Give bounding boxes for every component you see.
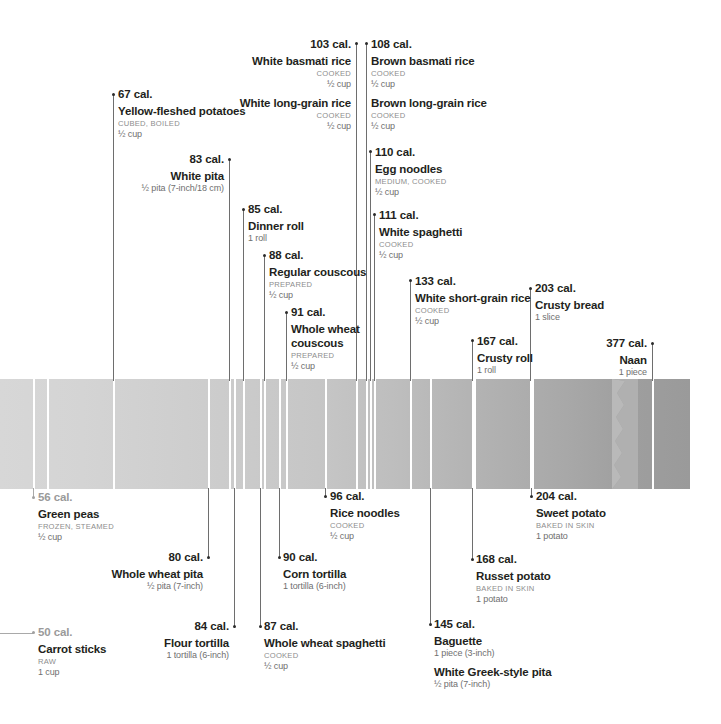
serving-size-secondary: ½ pita (7-inch) bbox=[434, 679, 551, 690]
serving-size: 1 tortilla (6-inch) bbox=[283, 581, 346, 592]
prep-note: COOKED bbox=[371, 69, 487, 79]
food-name: Dinner roll bbox=[248, 219, 304, 233]
label-green-peas[interactable]: 56 cal. Green peas FROZEN, STEAMED ½ cup bbox=[38, 491, 114, 543]
leader-87 bbox=[260, 488, 261, 628]
band-divider-111 bbox=[374, 379, 376, 489]
label-naan[interactable]: 377 cal. Naan 1 piece bbox=[540, 337, 647, 378]
serving-size: ½ cup bbox=[379, 250, 462, 261]
calorie-value: 108 cal. bbox=[371, 38, 487, 51]
band-divider-67 bbox=[113, 379, 115, 489]
label-corn-tortilla[interactable]: 90 cal. Corn tortilla 1 tortilla (6-inch… bbox=[283, 551, 346, 592]
label-dinner-roll[interactable]: 85 cal. Dinner roll 1 roll bbox=[248, 203, 304, 244]
dot-84 bbox=[233, 625, 236, 628]
label-carrot-sticks[interactable]: 50 cal. Carrot sticks RAW 1 cup bbox=[38, 626, 106, 678]
label-brown-basmati-rice[interactable]: 108 cal. Brown basmati rice COOKED ½ cup… bbox=[371, 38, 487, 132]
dot-168 bbox=[471, 558, 474, 561]
serving-size: ½ cup bbox=[291, 361, 361, 372]
label-regular-couscous[interactable]: 88 cal. Regular couscous PREPARED ½ cup bbox=[269, 249, 366, 301]
label-crusty-bread[interactable]: 203 cal. Crusty bread 1 slice bbox=[535, 282, 604, 323]
label-white-short-grain-rice[interactable]: 133 cal. White short-grain rice COOKED ½… bbox=[415, 275, 531, 327]
food-name: Crusty bread bbox=[535, 298, 604, 312]
food-name: Brown basmati rice bbox=[371, 54, 487, 68]
label-whole-wheat-spaghetti[interactable]: 87 cal. Whole wheat spaghetti COOKED ½ c… bbox=[264, 620, 385, 672]
food-name: Baguette bbox=[434, 634, 551, 648]
dot-87 bbox=[259, 625, 262, 628]
serving-size: ½ cup bbox=[415, 316, 531, 327]
calorie-value: 110 cal. bbox=[375, 146, 446, 159]
label-white-pita[interactable]: 83 cal. White pita ½ pita (7-inch/18 cm) bbox=[0, 153, 224, 194]
label-rice-noodles[interactable]: 96 cal. Rice noodles COOKED ½ cup bbox=[330, 490, 400, 542]
leader-377 bbox=[652, 344, 653, 381]
food-name-secondary: White long-grain rice bbox=[120, 96, 351, 110]
serving-size: ½ pita (7-inch/18 cm) bbox=[0, 183, 224, 194]
calorie-value: 87 cal. bbox=[264, 620, 385, 633]
leader-50-horizontal bbox=[0, 633, 33, 634]
leader-167 bbox=[472, 341, 473, 381]
food-name: White pita bbox=[0, 169, 224, 183]
serving-size: ½ cup bbox=[375, 187, 446, 198]
dot-377 bbox=[651, 342, 654, 345]
leader-84 bbox=[234, 488, 235, 628]
food-name: Whole wheat spaghetti bbox=[264, 636, 385, 650]
prep-note: COOKED bbox=[415, 306, 531, 316]
label-whole-wheat-pita[interactable]: 80 cal. Whole wheat pita ½ pita (7-inch) bbox=[80, 551, 203, 592]
serving-size: ½ cup bbox=[330, 531, 400, 542]
leader-145 bbox=[430, 488, 431, 626]
prep-note: FROZEN, STEAMED bbox=[38, 522, 114, 532]
serving-size: 1 cup bbox=[38, 667, 106, 678]
food-name: White short-grain rice bbox=[415, 291, 531, 305]
leader-91 bbox=[286, 313, 287, 381]
calorie-value: 133 cal. bbox=[415, 275, 531, 288]
dot-108 bbox=[365, 42, 368, 45]
leader-80 bbox=[208, 488, 209, 558]
prep-note: RAW bbox=[38, 657, 106, 667]
leader-83 bbox=[229, 160, 230, 381]
dot-133 bbox=[409, 279, 412, 282]
band-divider-50 bbox=[33, 379, 35, 489]
infographic-canvas: 67 cal. Yellow-fleshed potatoes CUBED, B… bbox=[0, 0, 721, 724]
prep-note: COOKED bbox=[330, 521, 400, 531]
band-divider-103 bbox=[356, 379, 358, 489]
label-white-spaghetti[interactable]: 111 cal. White spaghetti COOKED ½ cup bbox=[379, 209, 462, 261]
serving-size: 1 piece (3-inch) bbox=[434, 648, 551, 659]
serving-size: 1 roll bbox=[477, 365, 533, 376]
label-whole-wheat-couscous[interactable]: 91 cal. Whole wheat couscous PREPARED ½ … bbox=[291, 306, 361, 372]
leader-168 bbox=[472, 488, 473, 560]
leader-108 bbox=[366, 44, 367, 381]
band-divider-83 bbox=[229, 379, 231, 489]
calorie-value: 96 cal. bbox=[330, 490, 400, 503]
food-name: Flour tortilla bbox=[110, 636, 229, 650]
dot-50 bbox=[32, 631, 35, 634]
label-flour-tortilla[interactable]: 84 cal. Flour tortilla 1 tortilla (6-inc… bbox=[110, 620, 229, 661]
prep-note: BAKED IN SKIN bbox=[476, 584, 551, 594]
calorie-value: 167 cal. bbox=[477, 335, 533, 348]
food-name: Rice noodles bbox=[330, 506, 400, 520]
dot-83 bbox=[228, 158, 231, 161]
serving-size: ½ pita (7-inch) bbox=[80, 581, 203, 592]
band-divider-56 bbox=[47, 379, 49, 489]
food-name: Carrot sticks bbox=[38, 642, 106, 656]
food-name: Naan bbox=[540, 353, 647, 367]
leader-67 bbox=[113, 95, 114, 381]
dot-90 bbox=[278, 556, 281, 559]
prep-note-secondary: COOKED bbox=[371, 111, 487, 121]
leader-110 bbox=[370, 152, 371, 381]
serving-size: ½ cup bbox=[371, 79, 487, 90]
band-divider-90 bbox=[279, 379, 281, 489]
prep-note-secondary: COOKED bbox=[120, 111, 351, 121]
band-divider-108 bbox=[366, 379, 368, 489]
calorie-value: 80 cal. bbox=[80, 551, 203, 564]
label-sweet-potato[interactable]: 204 cal. Sweet potato BAKED IN SKIN 1 po… bbox=[536, 490, 606, 542]
label-russet-potato[interactable]: 168 cal. Russet potato BAKED IN SKIN 1 p… bbox=[476, 553, 551, 605]
band-divider-80 bbox=[208, 379, 210, 489]
calorie-value: 204 cal. bbox=[536, 490, 606, 503]
label-egg-noodles[interactable]: 110 cal. Egg noodles MEDIUM, COOKED ½ cu… bbox=[375, 146, 446, 198]
serving-size: 1 tortilla (6-inch) bbox=[110, 650, 229, 661]
label-crusty-roll[interactable]: 167 cal. Crusty roll 1 roll bbox=[477, 335, 533, 376]
serving-size: 1 potato bbox=[536, 531, 606, 542]
band-gradient-fill bbox=[0, 379, 690, 489]
serving-size: ½ cup bbox=[269, 290, 366, 301]
dot-56 bbox=[32, 496, 35, 499]
label-baguette[interactable]: 145 cal. Baguette 1 piece (3-inch) White… bbox=[434, 618, 551, 690]
label-white-basmati-rice[interactable]: 103 cal. White basmati rice COOKED ½ cup… bbox=[120, 38, 351, 132]
